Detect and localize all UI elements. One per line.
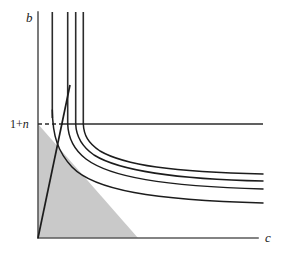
y-axis-label: b — [26, 10, 33, 25]
shaded-cone-region — [38, 124, 138, 238]
phase-diagram: b c 1+n — [0, 0, 284, 256]
locus-curve-4 — [83, 124, 263, 174]
x-axis-label: c — [265, 230, 271, 245]
figure-root: b c 1+n — [0, 0, 284, 256]
tick-label-prefix: 1+ — [10, 117, 23, 131]
tick-label-italic-n: n — [23, 117, 29, 131]
y-tick-label-one-plus-n: 1+n — [10, 117, 29, 131]
